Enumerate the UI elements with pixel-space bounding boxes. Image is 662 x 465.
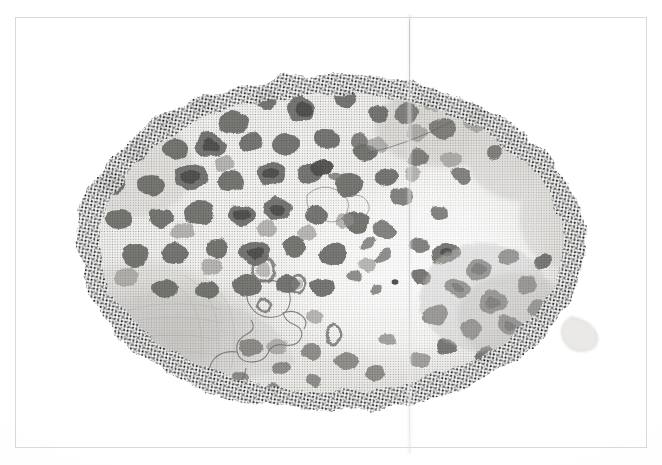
caption-area: [15, 452, 647, 464]
plate-frame-border: [15, 17, 647, 448]
plate-page: [0, 0, 662, 465]
